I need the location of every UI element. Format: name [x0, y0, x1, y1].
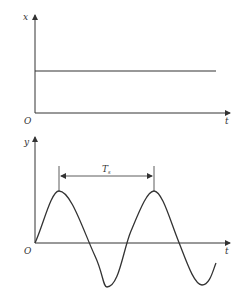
bottom-y-axis-label: y [23, 137, 30, 147]
bottom-origin-label: O [24, 246, 32, 256]
bottom-x-axis-label: t [225, 246, 229, 256]
top-y-axis-label: x [23, 12, 28, 22]
top-plot: x t O [23, 12, 230, 126]
top-x-axis-label: t [225, 116, 229, 126]
sine-wave [35, 191, 216, 287]
period-label-subscript: s [108, 169, 111, 175]
period-label: Ts [102, 164, 111, 175]
bottom-plot: Ts y t O [23, 137, 230, 287]
diagram-canvas: x t O Ts y t O [0, 0, 242, 300]
top-origin-label: O [24, 116, 32, 126]
